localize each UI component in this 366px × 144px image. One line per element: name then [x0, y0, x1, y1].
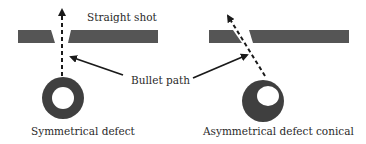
bullet-defect-diagram: Straight shot Bullet path Symmetrical de…	[0, 0, 366, 144]
symmetrical-defect-label: Symmetrical defect	[31, 125, 136, 137]
asymmetrical-defect-label: Asymmetrical defect conical	[202, 125, 354, 137]
asymmetrical-defect-icon	[242, 80, 284, 122]
straight-shot-label: Straight shot	[87, 11, 158, 23]
bullet-path-pointer-left	[71, 57, 123, 75]
left-plate	[18, 30, 158, 43]
right-plate	[209, 30, 349, 43]
bullet-path-pointer-right	[193, 55, 247, 78]
angled-trajectory-arrow	[228, 16, 265, 76]
bullet-path-label: Bullet path	[131, 74, 190, 86]
symmetrical-defect-icon	[42, 77, 84, 119]
